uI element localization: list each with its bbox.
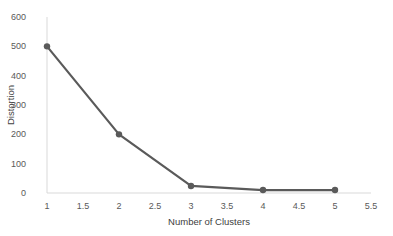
data-point-marker (332, 187, 338, 193)
data-point-marker (116, 131, 122, 137)
x-tick-label: 5.5 (365, 201, 378, 211)
distortion-line (47, 46, 335, 190)
y-axis-title: Distortion (5, 85, 16, 125)
data-series (44, 43, 338, 193)
y-tick-label: 100 (11, 159, 26, 169)
data-point-marker (44, 43, 50, 49)
data-point-marker (260, 187, 266, 193)
x-tick-label: 1.5 (77, 201, 90, 211)
x-axis-title: Number of Clusters (168, 216, 250, 227)
y-tick-label: 200 (11, 129, 26, 139)
x-tick-label: 5 (332, 201, 337, 211)
x-tick-label: 1 (44, 201, 49, 211)
y-tick-label: 400 (11, 71, 26, 81)
x-tick-label: 4 (260, 201, 265, 211)
x-tick-label: 3.5 (221, 201, 234, 211)
data-point-marker (188, 183, 194, 189)
chart-canvas: 0100200300400500600 11.522.533.544.555.5… (0, 0, 393, 236)
y-tick-label: 0 (21, 188, 26, 198)
x-axis-tick-labels: 11.522.533.544.555.5 (44, 201, 377, 211)
x-tick-label: 2.5 (149, 201, 162, 211)
elbow-line-chart: 0100200300400500600 11.522.533.544.555.5… (0, 0, 393, 236)
x-tick-label: 2 (116, 201, 121, 211)
y-tick-label: 600 (11, 12, 26, 22)
y-tick-label: 500 (11, 41, 26, 51)
x-tick-label: 4.5 (293, 201, 306, 211)
x-tick-label: 3 (188, 201, 193, 211)
